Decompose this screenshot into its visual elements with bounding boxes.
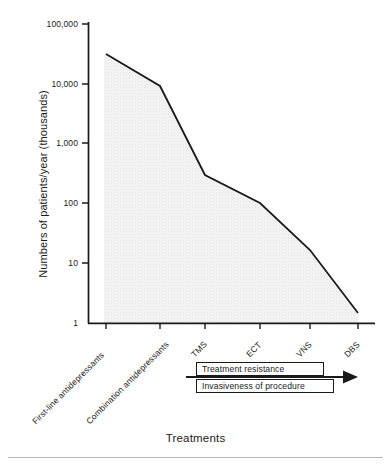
x-axis-title: Treatments (0, 432, 391, 444)
annotation-invasiveness-of-procedure: Invasiveness of procedure (196, 379, 334, 393)
figure-container: 100,000 10,000 1,000 100 10 1 Numbers of… (0, 0, 391, 466)
y-tick-label-100000: 100,000 (8, 19, 78, 29)
annotation-treatment-resistance: Treatment resistance (196, 362, 324, 376)
bottom-divider (8, 457, 383, 458)
y-axis-title: Numbers of patients/year (thousands) (37, 59, 49, 309)
y-tick-label-1: 1 (8, 318, 78, 328)
